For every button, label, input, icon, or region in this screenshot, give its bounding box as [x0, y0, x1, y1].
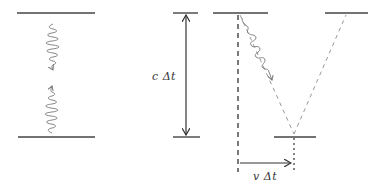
- displacement-label: v Δt: [253, 170, 277, 183]
- photon-path-up: [294, 15, 346, 134]
- photon-wave-up-icon: [45, 86, 58, 133]
- height-label: c Δt: [152, 70, 176, 83]
- diagram-canvas: [0, 0, 381, 186]
- light-clock-diagram: c Δt v Δt: [0, 0, 381, 186]
- clock-at-rest: [17, 13, 95, 137]
- clock-moving: [213, 13, 368, 172]
- photon-wave-diagonal-icon: [242, 18, 272, 80]
- photon-wave-down-icon: [46, 24, 59, 70]
- clock-height: [173, 13, 200, 137]
